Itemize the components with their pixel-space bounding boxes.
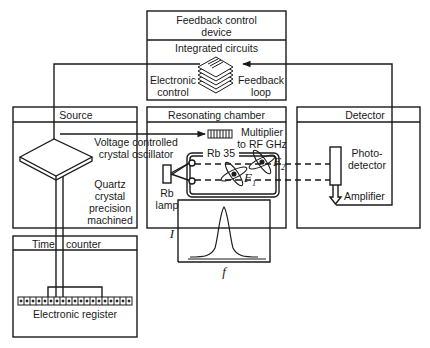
plot-y-label: I — [168, 228, 176, 240]
photodetector-label: Photo- detector — [344, 147, 390, 171]
multiplier-label: Multiplier to RF GHz — [234, 126, 290, 150]
oscillator-label: Voltage controlled crystal oscillator — [86, 136, 186, 160]
multiplier-icon — [208, 130, 232, 138]
feedback-loop-label: Feedback loop — [236, 74, 286, 98]
time-counter-title-right: counter — [66, 238, 101, 250]
time-counter-title-left: Time — [32, 238, 55, 250]
source-title: Source — [56, 109, 96, 121]
rb-lamp-label: Rb lamp — [153, 187, 181, 211]
quartz-crystal-icon — [20, 139, 92, 180]
integrated-circuits-label: Integrated circuits — [147, 42, 286, 54]
feedback-device-title: Feedback control device — [147, 14, 286, 38]
quartz-crystal-label: Quartz crystal precision machined — [80, 178, 140, 226]
state-f2-label: F2 — [273, 156, 285, 174]
detector-title: Detector — [330, 109, 400, 121]
resonating-chamber-title: Resonating chamber — [147, 109, 286, 121]
amplifier-label: Amplifier — [344, 190, 385, 202]
state-f1-label: F1 — [244, 172, 256, 190]
electronic-register-label: Electronic register — [13, 308, 137, 320]
integrated-circuit-stack-icon — [198, 57, 233, 93]
rb-cell-label: Rb 35 — [203, 147, 239, 159]
electronic-register — [18, 297, 132, 305]
plot-x-label: f — [220, 266, 228, 278]
electronic-control-label: Electronic control — [148, 74, 198, 98]
